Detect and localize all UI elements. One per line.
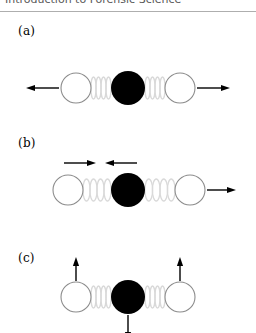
arrow-left-outward — [26, 85, 59, 91]
atom-left — [53, 175, 83, 205]
atom-left — [61, 73, 91, 103]
page-title: Introduction to Forensic Science — [5, 0, 181, 6]
diagram-canvas-c — [0, 245, 256, 333]
atom-right — [165, 282, 195, 312]
atom-center — [111, 71, 145, 105]
spring-right — [145, 77, 165, 99]
arrow-right-outward — [197, 85, 230, 91]
spring-right — [145, 286, 165, 308]
header-divider — [0, 11, 256, 12]
atom-left — [61, 282, 91, 312]
arrow-left-inward — [64, 160, 96, 166]
atom-center — [111, 173, 145, 207]
arrow-center-down — [125, 315, 131, 333]
figure-panel-b: (b) — [0, 130, 256, 240]
molecule-diagram-asymmetric-stretch — [0, 130, 256, 240]
figure-panel-c: (c) — [0, 245, 256, 333]
atom-right — [175, 175, 205, 205]
diagram-canvas-b — [0, 130, 256, 240]
molecule-diagram-symmetric-stretch — [0, 18, 256, 123]
figure-panel-a: (a) — [0, 18, 256, 123]
arrow-right-outward — [207, 187, 236, 193]
page-header: Introduction to Forensic Science — [0, 0, 256, 13]
arrow-right-up — [177, 257, 183, 281]
spring-left — [91, 286, 111, 308]
arrow-left-up — [73, 257, 79, 281]
atom-center — [111, 280, 145, 314]
spring-left — [83, 179, 111, 201]
diagram-canvas-a — [0, 18, 256, 123]
molecule-diagram-bending — [0, 245, 256, 333]
atom-right — [165, 73, 195, 103]
arrow-center-inward — [105, 160, 137, 166]
spring-left — [91, 77, 111, 99]
spring-right — [145, 179, 175, 201]
